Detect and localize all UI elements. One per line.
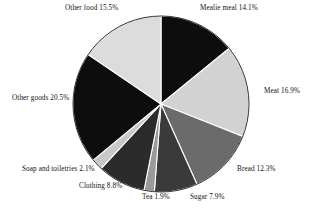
pie-label-mealie-meal: Mealie meal 14.1%	[200, 5, 258, 13]
pie-label-meat: Meat 16.9%	[264, 88, 300, 96]
pie-label-tea: Tea 1.9%	[142, 194, 170, 202]
pie-label-soap-and-toiletries: Soap and toiletries 2.1%	[22, 166, 95, 174]
pie-label-other-food: Other food 15.5%	[65, 5, 118, 13]
pie-label-bread: Bread 12.3%	[237, 166, 276, 174]
pie-label-sugar: Sugar 7.9%	[190, 194, 225, 202]
pie-chart-graphic	[0, 0, 323, 213]
pie-chart-figure: Mealie meal 14.1% Meat 16.9% Bread 12.3%…	[0, 0, 323, 213]
pie-label-other-goods: Other goods 20.5%	[12, 95, 69, 103]
pie-label-clothing: Clothing 8.8%	[79, 183, 122, 191]
